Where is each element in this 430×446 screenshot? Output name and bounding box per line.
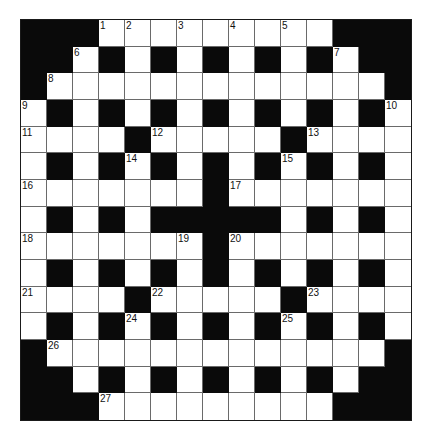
letter-cell[interactable] [21,153,47,180]
letter-cell[interactable] [359,233,385,260]
letter-cell[interactable] [333,260,359,287]
letter-cell[interactable] [281,393,307,420]
letter-cell[interactable] [99,73,125,100]
letter-cell[interactable] [229,73,255,100]
letter-cell[interactable] [333,233,359,260]
letter-cell[interactable]: 16 [21,180,47,207]
letter-cell[interactable] [73,207,99,234]
letter-cell[interactable] [151,73,177,100]
letter-cell[interactable] [255,340,281,367]
letter-cell[interactable] [177,47,203,74]
letter-cell[interactable] [307,73,333,100]
letter-cell[interactable] [177,367,203,394]
letter-cell[interactable] [385,207,411,234]
letter-cell[interactable] [385,127,411,154]
letter-cell[interactable] [333,287,359,314]
letter-cell[interactable] [177,127,203,154]
letter-cell[interactable] [281,207,307,234]
letter-cell[interactable] [333,313,359,340]
letter-cell[interactable] [281,367,307,394]
letter-cell[interactable] [177,340,203,367]
letter-cell[interactable] [73,127,99,154]
letter-cell[interactable] [73,73,99,100]
letter-cell[interactable] [73,340,99,367]
letter-cell[interactable] [47,233,73,260]
letter-cell[interactable] [385,180,411,207]
letter-cell[interactable] [359,127,385,154]
letter-cell[interactable] [73,153,99,180]
letter-cell[interactable] [99,340,125,367]
letter-cell[interactable] [333,367,359,394]
letter-cell[interactable] [73,233,99,260]
letter-cell[interactable]: 1 [99,20,125,47]
letter-cell[interactable] [281,180,307,207]
letter-cell[interactable] [177,313,203,340]
letter-cell[interactable] [177,287,203,314]
letter-cell[interactable]: 3 [177,20,203,47]
letter-cell[interactable] [99,127,125,154]
letter-cell[interactable] [281,340,307,367]
letter-cell[interactable] [229,287,255,314]
letter-cell[interactable] [255,287,281,314]
letter-cell[interactable] [99,233,125,260]
letter-cell[interactable]: 13 [307,127,333,154]
letter-cell[interactable] [307,233,333,260]
letter-cell[interactable]: 22 [151,287,177,314]
letter-cell[interactable]: 19 [177,233,203,260]
letter-cell[interactable] [125,180,151,207]
letter-cell[interactable]: 25 [281,313,307,340]
letter-cell[interactable] [203,393,229,420]
letter-cell[interactable] [359,180,385,207]
letter-cell[interactable] [151,20,177,47]
letter-cell[interactable] [229,100,255,127]
letter-cell[interactable] [281,73,307,100]
letter-cell[interactable] [229,393,255,420]
letter-cell[interactable]: 27 [99,393,125,420]
letter-cell[interactable] [359,287,385,314]
letter-cell[interactable]: 23 [307,287,333,314]
letter-cell[interactable] [333,73,359,100]
letter-cell[interactable] [255,20,281,47]
letter-cell[interactable] [125,367,151,394]
letter-cell[interactable]: 11 [21,127,47,154]
letter-cell[interactable]: 18 [21,233,47,260]
letter-cell[interactable] [385,287,411,314]
letter-cell[interactable] [203,287,229,314]
letter-cell[interactable] [125,340,151,367]
letter-cell[interactable] [333,180,359,207]
letter-cell[interactable] [125,260,151,287]
letter-cell[interactable] [99,287,125,314]
letter-cell[interactable] [125,233,151,260]
letter-cell[interactable]: 20 [229,233,255,260]
letter-cell[interactable] [385,260,411,287]
letter-cell[interactable] [255,127,281,154]
letter-cell[interactable] [21,260,47,287]
letter-cell[interactable] [385,313,411,340]
letter-cell[interactable] [229,153,255,180]
letter-cell[interactable]: 2 [125,20,151,47]
letter-cell[interactable] [151,180,177,207]
letter-cell[interactable] [151,340,177,367]
letter-cell[interactable] [151,233,177,260]
letter-cell[interactable]: 9 [21,100,47,127]
letter-cell[interactable] [385,233,411,260]
letter-cell[interactable]: 10 [385,100,411,127]
letter-cell[interactable] [333,207,359,234]
letter-cell[interactable] [385,153,411,180]
letter-cell[interactable] [177,393,203,420]
letter-cell[interactable] [333,127,359,154]
letter-cell[interactable] [333,100,359,127]
letter-cell[interactable] [47,127,73,154]
letter-cell[interactable] [177,73,203,100]
letter-cell[interactable]: 21 [21,287,47,314]
letter-cell[interactable] [307,340,333,367]
letter-cell[interactable]: 17 [229,180,255,207]
letter-cell[interactable] [125,73,151,100]
letter-cell[interactable]: 26 [47,340,73,367]
letter-cell[interactable] [229,313,255,340]
letter-cell[interactable] [333,340,359,367]
letter-cell[interactable] [177,260,203,287]
letter-cell[interactable] [21,207,47,234]
letter-cell[interactable] [229,127,255,154]
letter-cell[interactable] [73,367,99,394]
